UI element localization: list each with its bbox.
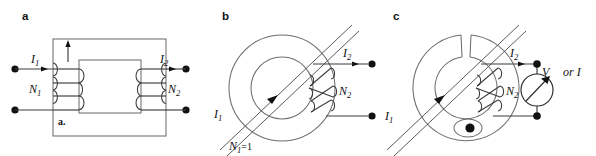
panel-a-inner-label: a. bbox=[58, 116, 66, 127]
secondary-current-arrow-icon bbox=[352, 61, 359, 66]
primary-current-label: I1 bbox=[213, 107, 222, 123]
panel-b: b I1 N1=1 N2 bbox=[200, 0, 390, 156]
flux-arrow-icon bbox=[65, 40, 70, 62]
panel-a: a I1 bbox=[0, 0, 200, 156]
meter-terminal-bottom bbox=[533, 112, 541, 120]
secondary-current-arrow-icon bbox=[518, 61, 525, 66]
primary-current-label: I1 bbox=[30, 52, 39, 68]
secondary-turns-label: N2 bbox=[338, 84, 352, 100]
meter-alternative-label: or I bbox=[563, 65, 582, 79]
meter-terminal-top bbox=[533, 60, 541, 68]
secondary-current-label: I2 bbox=[509, 46, 519, 62]
secondary-current-label: I2 bbox=[159, 52, 169, 68]
panel-c: c I1 bbox=[385, 0, 596, 156]
primary-current-label: I1 bbox=[385, 109, 393, 125]
split-gap-left-wall bbox=[461, 35, 462, 57]
secondary-turns-label: N2 bbox=[167, 82, 181, 98]
toroid-inner-circle bbox=[251, 57, 313, 119]
primary-turns-label: N1 bbox=[28, 82, 41, 98]
primary-turns-equation-label: N1=1 bbox=[228, 139, 252, 155]
secondary-turns-label: N2 bbox=[505, 84, 519, 100]
transformer-core-window bbox=[79, 60, 141, 113]
primary-current-arrow-icon bbox=[41, 66, 48, 71]
split-gap-right-wall bbox=[470, 35, 471, 57]
secondary-terminal-bottom bbox=[368, 112, 375, 119]
figure-container: a I1 bbox=[0, 0, 596, 156]
secondary-current-label: I2 bbox=[342, 46, 352, 62]
panel-c-letter: c bbox=[393, 10, 400, 22]
hinge-pivot-icon bbox=[454, 119, 482, 137]
panel-a-letter: a bbox=[22, 10, 29, 22]
transformer-outer-core bbox=[53, 39, 166, 136]
secondary-current-arrow-icon bbox=[169, 66, 176, 71]
secondary-terminal-top bbox=[368, 60, 375, 67]
toroid-outer-circle bbox=[229, 35, 335, 141]
panel-b-letter: b bbox=[222, 10, 229, 22]
